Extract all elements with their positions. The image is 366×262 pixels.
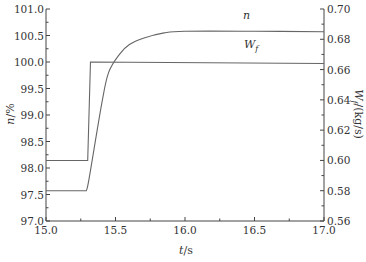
- y-right-axis-ticks: 0.560.580.600.620.640.660.680.70: [320, 3, 351, 227]
- y-left-tick-label: 100.5: [14, 30, 44, 42]
- y-left-axis-title: n/%: [4, 103, 17, 124]
- y-right-tick-label: 0.56: [327, 215, 351, 227]
- y-right-tick-label: 0.62: [327, 124, 350, 136]
- y-left-tick-label: 97.5: [21, 189, 44, 201]
- y-right-tick-label: 0.66: [327, 64, 351, 76]
- y-left-tick-label: 99.5: [21, 83, 44, 95]
- y-left-tick-label: 101.0: [14, 3, 44, 15]
- y-right-tick-label: 0.64: [327, 94, 351, 106]
- series-line-wf: [46, 62, 324, 160]
- series-line-n: [46, 31, 324, 191]
- x-axis-ticks: 15.015.516.016.517.0: [34, 217, 335, 236]
- series-label-n: n: [243, 9, 250, 22]
- x-axis-title: t/s: [179, 244, 193, 257]
- y-right-tick-label: 0.68: [327, 33, 350, 45]
- series-lines: [46, 31, 324, 191]
- y-left-tick-label: 97.0: [21, 215, 44, 227]
- y-left-tick-label: 99.0: [21, 109, 44, 121]
- y-right-tick-label: 0.58: [327, 185, 350, 197]
- y-left-tick-label: 98.5: [21, 136, 44, 148]
- x-tick-label: 15.5: [104, 224, 127, 236]
- y-right-tick-label: 0.70: [327, 3, 350, 15]
- y-right-axis-title: Wf/(kg/s): [350, 89, 365, 139]
- x-tick-label: 16.0: [173, 224, 196, 236]
- y-left-axis-ticks: 97.097.598.098.599.099.5100.0100.5101.0: [14, 3, 50, 227]
- y-left-tick-label: 98.0: [21, 162, 44, 174]
- y-left-tick-label: 100.0: [14, 56, 44, 68]
- y-right-tick-label: 0.60: [327, 154, 350, 166]
- plot-frame: [46, 9, 324, 221]
- chart: 15.015.516.016.517.0 97.097.598.098.599.…: [0, 0, 366, 262]
- x-tick-label: 16.5: [243, 224, 266, 236]
- series-label-wf: Wf: [244, 38, 260, 53]
